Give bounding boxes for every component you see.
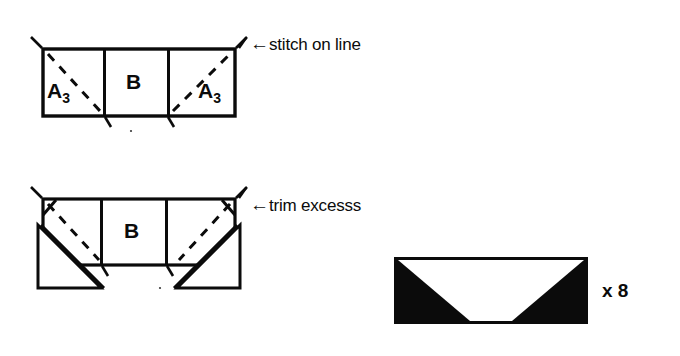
unit1-label-a3-right: A3 [198, 80, 221, 101]
unit1-tick-top-left [31, 37, 42, 48]
label-base: B [126, 70, 141, 93]
label-base: A [198, 79, 213, 102]
unit1-tick-bottom-right [168, 117, 174, 127]
finished-unit-quantity: x 8 [602, 280, 628, 302]
unit2-label-b: B [124, 220, 139, 241]
annotation-trim-label: trim excesss [269, 196, 361, 215]
left-arrow-icon: ← [250, 194, 266, 215]
annotation-stitch-label: stitch on line [269, 35, 361, 54]
diagram-canvas: A3 B A3 ←stitch on line B ←trim excesss … [0, 0, 680, 356]
print-speck-1 [130, 130, 132, 132]
annotation-trim-excess: ←trim excesss [250, 194, 361, 216]
print-speck-2 [159, 287, 161, 289]
unit2-tick-bottom-right [167, 266, 173, 276]
unit2-tick-bottom-left [102, 266, 108, 276]
label-subscript: 3 [213, 90, 221, 106]
left-arrow-icon: ← [250, 33, 266, 54]
label-subscript: 3 [62, 90, 70, 106]
unit1-label-a3-left: A3 [47, 80, 70, 101]
label-base: A [47, 79, 62, 102]
label-base: B [124, 219, 139, 242]
unit2-tick-top-left [31, 187, 42, 198]
unit1-label-b: B [126, 71, 141, 92]
unit1-tick-bottom-left [105, 117, 111, 127]
annotation-stitch-on-line: ←stitch on line [250, 33, 361, 55]
